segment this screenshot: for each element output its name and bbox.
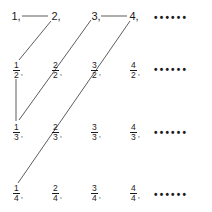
entry-4: 4, <box>129 11 138 22</box>
ellipsis-row-1: •••••• <box>154 12 188 23</box>
fraction-3-2: 32 , <box>91 61 101 79</box>
ellipsis-row-2: •••••• <box>154 64 188 75</box>
entry-2: 2, <box>51 11 60 22</box>
fraction-1-3: 13 , <box>13 123 23 141</box>
entry-1: 1, <box>11 11 20 22</box>
entry-3: 3, <box>91 11 100 22</box>
fraction-3-4: 34 , <box>91 184 101 202</box>
ellipsis-row-4: •••••• <box>154 189 188 200</box>
fraction-1-4: 14 , <box>13 184 23 202</box>
fraction-4-3: 43 , <box>130 123 140 141</box>
edge-2-to-1-2 <box>19 21 51 60</box>
fraction-1-2: 12 , <box>13 61 23 79</box>
fraction-3-3: 33 , <box>91 123 101 141</box>
fraction-2-2: 22 , <box>52 61 62 79</box>
fraction-4-2: 42 , <box>130 61 140 79</box>
fraction-4-4: 44 , <box>130 184 140 202</box>
edge-4-to-1-4 <box>18 21 130 183</box>
ellipsis-row-3: •••••• <box>154 127 188 138</box>
zigzag-path <box>0 0 212 212</box>
fraction-2-3: 23 , <box>52 123 62 141</box>
fraction-2-4: 24 , <box>52 184 62 202</box>
